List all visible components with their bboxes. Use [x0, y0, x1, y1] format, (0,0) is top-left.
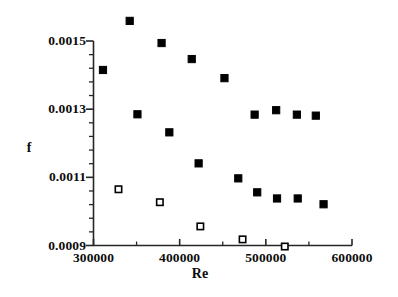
y-axis-title: f — [20, 140, 38, 156]
data-point-open-square — [157, 199, 163, 205]
x-axis-title: Re — [176, 266, 224, 282]
data-point-filled-square — [188, 55, 195, 62]
data-point-filled-square — [99, 66, 106, 73]
data-point-filled-square — [235, 175, 242, 182]
data-point-filled-square — [158, 39, 165, 46]
data-point-filled-square — [126, 17, 133, 24]
x-tick-label: 600000 — [307, 250, 397, 266]
data-point-filled-square — [320, 201, 327, 208]
y-tick-label: 0.0011 — [6, 169, 86, 185]
data-point-filled-square — [294, 195, 301, 202]
data-point-filled-square — [254, 189, 261, 196]
scatter-chart: 0.00090.00110.00130.0015 300000400000500… — [0, 0, 398, 297]
data-point-filled-square — [134, 111, 141, 118]
data-point-filled-square — [312, 112, 319, 119]
y-axis-ticks — [86, 41, 94, 246]
y-tick-label: 0.0013 — [6, 101, 86, 117]
data-point-filled-square — [195, 160, 202, 167]
data-point-filled-square — [273, 107, 280, 114]
data-points — [99, 17, 327, 249]
data-point-filled-square — [166, 129, 173, 136]
data-point-filled-square — [273, 195, 280, 202]
data-point-open-square — [115, 186, 121, 192]
data-point-open-square — [197, 223, 203, 229]
y-tick-label: 0.0015 — [6, 33, 86, 49]
x-tick-label: 500000 — [221, 250, 311, 266]
x-axis-ticks — [94, 239, 353, 246]
x-tick-label: 400000 — [135, 250, 225, 266]
data-point-filled-square — [251, 111, 258, 118]
x-tick-label: 300000 — [49, 250, 139, 266]
data-point-filled-square — [221, 75, 228, 82]
axis-lines — [93, 41, 352, 246]
data-point-filled-square — [293, 111, 300, 118]
data-point-open-square — [239, 236, 245, 242]
